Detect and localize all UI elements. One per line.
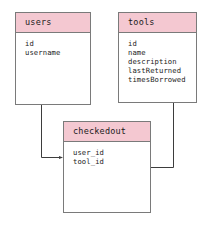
field-row: id bbox=[25, 39, 90, 48]
field-row: lastReturned bbox=[128, 66, 196, 75]
connector-users-to-checkedout bbox=[42, 105, 64, 159]
entity-table-tools[interactable]: tools id name description lastReturned t… bbox=[118, 12, 197, 103]
entity-fields-tools: id name description lastReturned timesBo… bbox=[119, 33, 196, 88]
entity-table-checkedout[interactable]: checkedout user_id tool_id bbox=[63, 121, 151, 213]
field-row: id bbox=[128, 39, 196, 48]
entity-fields-users: id username bbox=[16, 33, 90, 61]
entity-title-users: users bbox=[16, 13, 90, 33]
field-row: description bbox=[128, 57, 196, 66]
field-row: user_id bbox=[73, 148, 150, 157]
field-row: username bbox=[25, 48, 90, 57]
entity-fields-checkedout: user_id tool_id bbox=[64, 142, 150, 170]
entity-title-checkedout: checkedout bbox=[64, 122, 150, 142]
field-row: tool_id bbox=[73, 157, 150, 166]
er-diagram-canvas: users id username tools id name descript… bbox=[0, 0, 209, 226]
entity-title-tools: tools bbox=[119, 13, 196, 33]
field-row: name bbox=[128, 48, 196, 57]
field-row: timesBorrowed bbox=[128, 75, 196, 84]
entity-table-users[interactable]: users id username bbox=[15, 12, 91, 105]
